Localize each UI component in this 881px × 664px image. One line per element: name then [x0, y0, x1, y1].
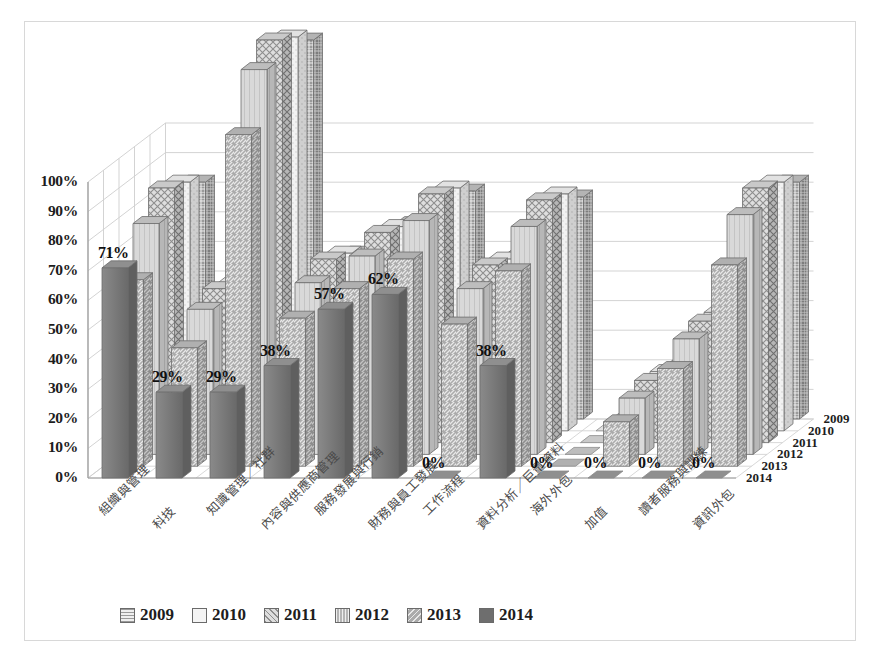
bar-value-label: 29%	[152, 368, 183, 386]
legend-item[interactable]: 2013	[407, 605, 461, 625]
legend-swatch-icon	[192, 608, 207, 623]
legend-swatch-icon	[479, 608, 494, 623]
bar-segment	[522, 264, 531, 466]
y-axis-tick-label: 100%	[22, 172, 78, 190]
chart-legend: 200920102011201220132014	[120, 600, 680, 630]
bar-segment	[506, 359, 515, 478]
y-axis-tick-label: 20%	[22, 409, 78, 427]
bar-segment	[182, 385, 191, 478]
legend-item[interactable]: 2012	[335, 605, 389, 625]
bar-segment	[568, 187, 577, 431]
y-axis-tick-label: 0%	[22, 468, 78, 486]
bar-segment	[252, 128, 261, 467]
bar-segment	[414, 252, 423, 466]
y-axis-tick-label: 10%	[22, 438, 78, 456]
legend-label: 2014	[499, 605, 533, 625]
bar-segment	[468, 317, 477, 466]
bar-segment	[784, 175, 793, 431]
z-axis-year-label: 2014	[746, 470, 772, 486]
bar-value-label: 57%	[314, 285, 345, 303]
legend-item[interactable]: 2014	[479, 605, 533, 625]
bar-segment	[480, 366, 506, 478]
y-axis-tick-label: 90%	[22, 202, 78, 220]
bar-value-label: 29%	[206, 368, 237, 386]
bar-segment	[658, 369, 684, 467]
bar-chart-3d	[0, 0, 881, 664]
bar-value-label: 0%	[530, 454, 553, 472]
legend-swatch-icon	[407, 608, 422, 623]
legend-label: 2013	[427, 605, 461, 625]
legend-swatch-icon	[264, 608, 279, 623]
y-axis-tick-label: 30%	[22, 379, 78, 397]
legend-swatch-icon	[120, 608, 135, 623]
y-axis-tick-label: 50%	[22, 320, 78, 338]
bar-segment	[156, 392, 182, 478]
bar-segment	[442, 324, 468, 466]
bar-segment	[769, 181, 778, 443]
bar-segment	[584, 190, 593, 419]
legend-label: 2010	[212, 605, 246, 625]
bar-segment	[699, 332, 708, 454]
bars-group	[102, 30, 809, 478]
bar-value-label: 0%	[638, 454, 661, 472]
bar-segment	[712, 265, 738, 466]
bar-segment	[696, 471, 731, 478]
bar-value-label: 38%	[260, 342, 291, 360]
bar-segment	[588, 471, 623, 478]
y-axis-tick-label: 70%	[22, 261, 78, 279]
bar-segment	[128, 261, 137, 478]
bar-segment	[210, 392, 236, 478]
bar-value-label: 38%	[476, 342, 507, 360]
bar-segment	[198, 341, 207, 466]
bar-segment	[306, 311, 315, 466]
y-axis-tick-label: 40%	[22, 350, 78, 368]
bar-segment	[344, 302, 353, 478]
bar-segment	[398, 287, 407, 478]
bar-value-label: 0%	[422, 454, 445, 472]
legend-swatch-icon	[335, 608, 350, 623]
bar-segment	[738, 258, 747, 466]
bar-segment	[800, 175, 809, 419]
bar-segment	[429, 214, 438, 455]
y-axis-tick-label: 60%	[22, 290, 78, 308]
bar-segment	[537, 219, 546, 454]
bar-segment	[604, 422, 630, 466]
legend-item[interactable]: 2011	[264, 605, 317, 625]
bar-segment	[553, 193, 562, 443]
bar-segment	[290, 359, 299, 478]
bar-segment	[102, 268, 128, 478]
bar-value-label: 71%	[98, 244, 129, 262]
bar-segment	[753, 208, 762, 455]
legend-label: 2012	[355, 605, 389, 625]
bar-value-label: 62%	[368, 270, 399, 288]
bar-segment	[360, 282, 369, 467]
y-axis-tick-label: 80%	[22, 231, 78, 249]
legend-item[interactable]: 2009	[120, 605, 174, 625]
bar-segment	[645, 391, 654, 454]
legend-label: 2009	[140, 605, 174, 625]
bar-value-label: 0%	[584, 454, 607, 472]
legend-item[interactable]: 2010	[192, 605, 246, 625]
legend-label: 2011	[284, 605, 317, 625]
bar-value-label: 0%	[692, 454, 715, 472]
